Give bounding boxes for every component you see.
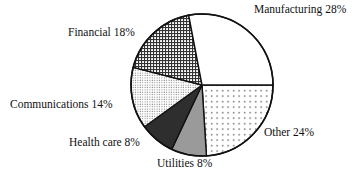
label-utilities: Utilities 8% [157, 157, 212, 169]
label-financial: Financial 18% [68, 26, 135, 38]
label-manufacturing: Manufacturing 28% [254, 3, 346, 15]
pie-chart [0, 0, 363, 178]
label-communications: Communications 14% [10, 98, 113, 110]
label-health-care: Health care 8% [69, 136, 140, 148]
label-other: Other 24% [264, 126, 314, 138]
slice-manufacturing [189, 14, 273, 85]
slice-other [202, 85, 273, 156]
